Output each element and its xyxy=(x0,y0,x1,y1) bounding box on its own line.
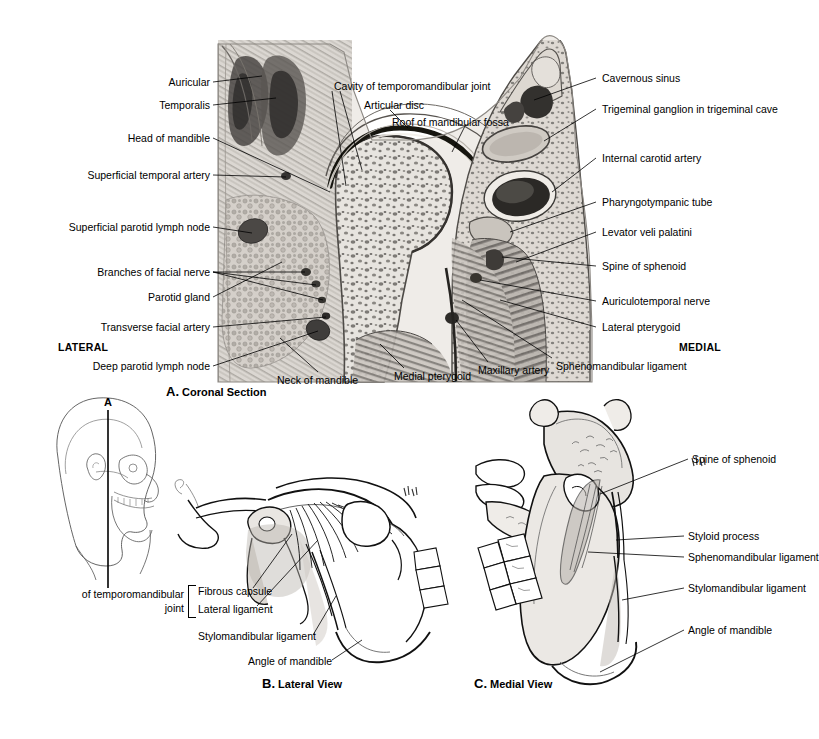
label-maxillary-artery: Maxillary artery xyxy=(478,364,549,376)
label-pharyngotympanic-tube: Pharyngotympanic tube xyxy=(602,196,712,208)
label-head-of-mandible: Head of mandible xyxy=(128,132,210,144)
label-roof-of-mandibular-fossa: Roof of mandibular fossa xyxy=(392,116,509,128)
panel-b-caption: B. Lateral View xyxy=(262,676,342,691)
label-auricular: Auricular xyxy=(169,76,210,88)
label-auriculotemporal-nerve: Auriculotemporal nerve xyxy=(602,295,710,307)
label-superficial-parotid-lymph-node: Superficial parotid lymph node xyxy=(69,221,210,233)
label-spine-of-sphenoid-c: Spine of sphenoid xyxy=(692,453,776,465)
label-angle-of-mandible-c: Angle of mandible xyxy=(688,624,772,636)
label-medial-pterygoid: Medial pterygoid xyxy=(394,370,471,382)
label-spine-of-sphenoid-a: Spine of sphenoid xyxy=(602,260,686,272)
label-internal-carotid-artery: Internal carotid artery xyxy=(602,152,701,164)
label-levator-veli-palatini: Levator veli palatini xyxy=(602,226,692,238)
label-cavity-of-tmj: Cavity of temporomandibular joint xyxy=(334,80,490,92)
panel-c-caption-text: Medial View xyxy=(490,678,552,690)
label-trigeminal-ganglion: Trigeminal ganglion in trigeminal cave xyxy=(602,103,778,115)
panel-a-caption-text: Coronal Section xyxy=(182,386,266,398)
label-articular-disc: Articular disc xyxy=(364,99,424,111)
orientation-lateral: LATERAL xyxy=(58,341,108,353)
orientation-key-head xyxy=(57,398,159,588)
label-sphenomandibular-ligament-c: Sphenomandibular ligament xyxy=(688,551,819,563)
label-stylomandibular-ligament-c: Stylomandibular ligament xyxy=(688,582,806,594)
label-lateral-pterygoid: Lateral pterygoid xyxy=(602,321,680,333)
panel-a-caption: A. Coronal Section xyxy=(166,384,266,399)
panel-c-letter: C. xyxy=(474,676,487,691)
bracket-tmj xyxy=(188,585,196,618)
panel-b-caption-text: Lateral View xyxy=(278,678,342,690)
label-deep-parotid-lymph-node: Deep parotid lymph node xyxy=(93,360,210,372)
panel-a-letter: A. xyxy=(166,384,179,399)
label-cavernous-sinus: Cavernous sinus xyxy=(602,72,680,84)
bracket-label-line2: joint xyxy=(165,602,184,614)
panel-c-caption: C. Medial View xyxy=(474,676,552,691)
label-fibrous-capsule: Fibrous capsule xyxy=(198,585,272,597)
label-stylomandibular-ligament-b: Stylomandibular ligament xyxy=(198,630,316,642)
label-parotid-gland: Parotid gland xyxy=(148,291,210,303)
label-styloid-process: Styloid process xyxy=(688,530,759,542)
bracket-label-line1: of temporomandibular xyxy=(82,588,184,600)
label-temporalis: Temporalis xyxy=(159,99,210,111)
section-plane-label-a: A xyxy=(104,396,112,408)
label-lateral-ligament: Lateral ligament xyxy=(198,603,273,615)
label-transverse-facial-artery: Transverse facial artery xyxy=(101,321,210,333)
label-branches-of-facial-nerve: Branches of facial nerve xyxy=(97,266,210,278)
label-angle-of-mandible-b: Angle of mandible xyxy=(248,655,332,667)
label-sphenomandibular-ligament-a: Sphenomandibular ligament xyxy=(556,360,687,372)
label-neck-of-mandible: Neck of mandible xyxy=(277,374,358,386)
orientation-medial: MEDIAL xyxy=(679,341,721,353)
panel-b-letter: B. xyxy=(262,676,275,691)
label-superficial-temporal-artery: Superficial temporal artery xyxy=(87,169,210,181)
panel-c-artwork xyxy=(476,400,705,685)
